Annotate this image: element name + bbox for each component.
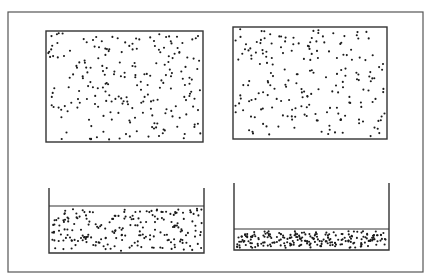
panel-gas-left (46, 31, 203, 142)
container-box (233, 27, 387, 139)
particles (47, 32, 201, 140)
particles (234, 28, 385, 137)
particles (236, 230, 387, 249)
container-box (46, 31, 203, 142)
diagram-canvas (0, 0, 431, 279)
particles (51, 208, 202, 252)
panel-liquid-left (49, 188, 204, 253)
particle-diagram (0, 0, 431, 279)
panels-group (46, 27, 389, 253)
panel-liquid-right (234, 183, 389, 250)
open-container (49, 188, 204, 253)
open-container (234, 183, 389, 250)
panel-gas-right (233, 27, 387, 139)
